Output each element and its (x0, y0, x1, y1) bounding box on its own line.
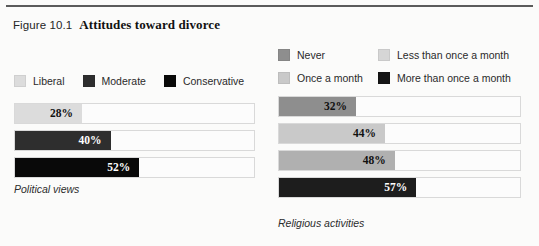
bar-fill[interactable]: 52% (15, 158, 139, 177)
legend-item-more-than-once-a-month[interactable]: More than once a month (378, 72, 538, 84)
bar-value-label: 40% (79, 135, 111, 147)
figure-title: Figure 10.1Attitudes toward divorce (13, 17, 220, 33)
legend-label-more-than-once-a-month: More than once a month (397, 72, 511, 84)
swatch-once-a-month-icon (278, 72, 290, 84)
legend-item-once-a-month[interactable]: Once a month (278, 72, 378, 84)
legend-label-conservative: Conservative (183, 75, 244, 87)
legend-item-never[interactable]: Never (278, 49, 378, 61)
legend-label-never: Never (297, 49, 325, 61)
bar-fill[interactable]: 57% (279, 178, 416, 197)
legend-label-moderate: Moderate (102, 75, 146, 87)
legend-political-views: Liberal Moderate Conservative (14, 72, 244, 89)
legend-item-less-than-once-a-month[interactable]: Less than once a month (378, 49, 538, 61)
legend-row: Liberal Moderate Conservative (14, 72, 244, 89)
swatch-more-than-once-a-month-icon (378, 72, 390, 84)
bar-value-label: 52% (107, 162, 139, 174)
legend-item-conservative[interactable]: Conservative (164, 75, 244, 87)
bar-value-label: 44% (353, 128, 385, 140)
page-title: Attitudes toward divorce (79, 17, 220, 32)
bar-value-label: 48% (363, 155, 395, 167)
bar-value-label: 57% (384, 182, 416, 194)
swatch-moderate-icon (83, 75, 95, 87)
bar-fill[interactable]: 32% (279, 97, 356, 116)
swatch-less-than-once-a-month-icon (378, 49, 390, 61)
legend-row: Never Less than once a month (278, 46, 538, 63)
bar-chart-religious-activities: 32%44%48%57% (278, 96, 521, 204)
swatch-conservative-icon (164, 75, 176, 87)
bar-fill[interactable]: 48% (279, 151, 395, 170)
bar-value-label: 32% (324, 101, 356, 113)
bar-track: 28% (14, 103, 255, 124)
bar-value-label: 28% (50, 108, 82, 120)
legend-label-once-a-month: Once a month (297, 72, 363, 84)
legend-label-less-than-once-a-month: Less than once a month (397, 49, 509, 61)
legend-label-liberal: Liberal (33, 75, 65, 87)
legend-item-moderate[interactable]: Moderate (83, 75, 146, 87)
figure-root: Figure 10.1Attitudes toward divorce Libe… (0, 0, 539, 246)
swatch-liberal-icon (14, 75, 26, 87)
top-rule (6, 5, 533, 7)
legend-item-liberal[interactable]: Liberal (14, 75, 65, 87)
bar-fill[interactable]: 28% (15, 104, 82, 123)
bar-track: 48% (278, 150, 521, 171)
caption-religious-activities: Religious activities (278, 217, 364, 229)
swatch-never-icon (278, 49, 290, 61)
bar-fill[interactable]: 40% (15, 131, 111, 150)
legend-religious-activities: Never Less than once a month Once a mont… (278, 46, 538, 86)
bar-track: 52% (14, 157, 255, 178)
figure-number: Figure 10.1 (13, 19, 72, 31)
bar-track: 57% (278, 177, 521, 198)
bar-track: 40% (14, 130, 255, 151)
bar-chart-political-views: 28%40%52% (14, 103, 255, 184)
legend-row: Once a month More than once a month (278, 69, 538, 86)
bar-track: 32% (278, 96, 521, 117)
bar-track: 44% (278, 123, 521, 144)
caption-political-views: Political views (14, 183, 79, 195)
bar-fill[interactable]: 44% (279, 124, 385, 143)
